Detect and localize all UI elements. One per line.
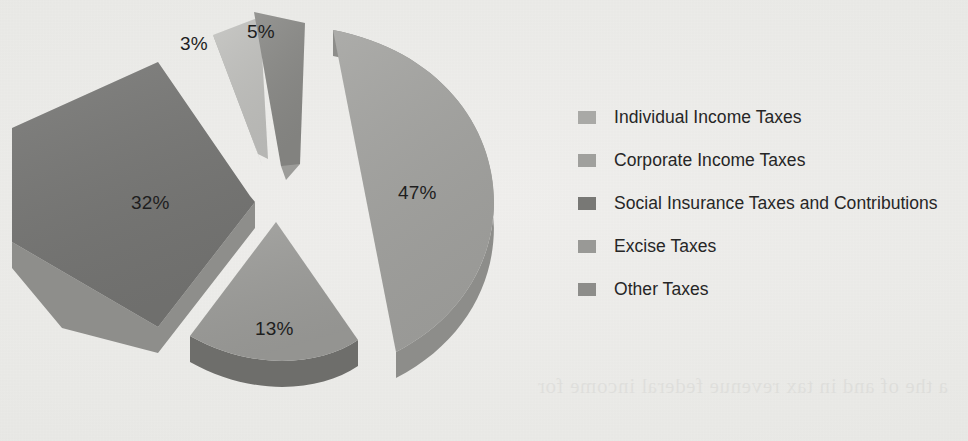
- legend-item-label: Corporate Income Taxes: [614, 150, 805, 171]
- chart-legend: Individual Income Taxes Corporate Income…: [578, 96, 966, 311]
- legend-swatch-icon: [578, 197, 596, 210]
- legend-item-individual-income-taxes[interactable]: Individual Income Taxes: [578, 96, 966, 139]
- legend-item-excise-taxes[interactable]: Excise Taxes: [578, 225, 966, 268]
- legend-item-label: Excise Taxes: [614, 236, 716, 257]
- legend-swatch-icon: [578, 283, 596, 296]
- legend-swatch-icon: [578, 111, 596, 124]
- legend-swatch-icon: [578, 240, 596, 253]
- pie-chart: 47% 13% 32% 3% 5%: [0, 0, 560, 441]
- legend-item-corporate-income-taxes[interactable]: Corporate Income Taxes: [578, 139, 966, 182]
- legend-item-other-taxes[interactable]: Other Taxes: [578, 268, 966, 311]
- legend-item-label: Individual Income Taxes: [614, 107, 802, 128]
- pie-slice-individual-income-taxes[interactable]: [333, 30, 494, 378]
- legend-swatch-icon: [578, 154, 596, 167]
- legend-item-label: Social Insurance Taxes and Contributions: [614, 193, 938, 214]
- chart-page: a the of and in tax revenue federal inco…: [0, 0, 968, 441]
- legend-item-label: Other Taxes: [614, 279, 709, 300]
- pie-chart-svg: [0, 0, 560, 441]
- legend-item-social-insurance-taxes[interactable]: Social Insurance Taxes and Contributions: [578, 182, 966, 225]
